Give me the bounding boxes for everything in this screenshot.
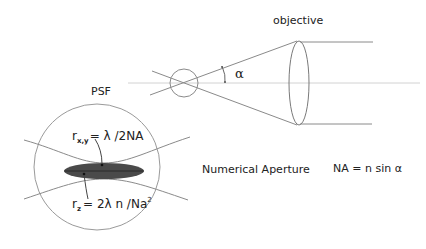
psf-label: PSF [91,85,111,98]
rz-formula: rz= 2λ n /Na2 [72,196,152,213]
rxy-formula: rx,y= λ /2NA [72,129,144,145]
alpha-label: α [235,66,244,81]
rz-leader-dot [83,173,86,176]
alpha-arc-tick-top [221,66,223,68]
alpha-arc-tick-bottom [224,81,226,83]
objective-label: objective [273,14,323,27]
lower-ray [152,71,297,125]
numerical-aperture-diagram: α objective PSF rx,y= λ /2NA rz= 2λ n /N… [0,0,426,249]
upper-ray [150,41,297,95]
rxy-leader-dot [101,164,104,167]
numerical-aperture-label: Numerical Aperture [202,163,310,176]
na-formula: NA = n sin α [333,162,402,175]
